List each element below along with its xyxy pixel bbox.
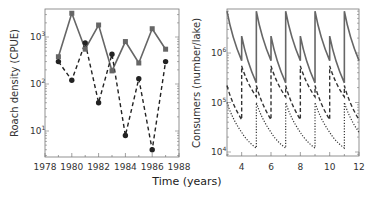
circle-marker (69, 78, 74, 83)
circle-marker (109, 52, 114, 57)
series-dashed-line (58, 43, 165, 150)
series-solid-sawtooth (227, 11, 359, 83)
left-ytick-1e1: 101 (30, 124, 45, 136)
square-marker (56, 54, 61, 59)
right-xtick-label: 8 (297, 162, 303, 172)
left-xtick-label: 1984 (114, 162, 137, 172)
left-plot-series (56, 11, 169, 153)
circle-marker (136, 76, 141, 81)
left-plot-frame (45, 9, 179, 157)
x-axis-label: Time (years) (151, 175, 221, 188)
right-xtick-label: 12 (353, 162, 364, 172)
right-x-tick-labels: 4681012 (239, 162, 365, 172)
circle-marker (150, 147, 155, 152)
left-xtick-label: 1982 (87, 162, 110, 172)
left-xtick-label: 1988 (168, 162, 191, 172)
square-marker (69, 11, 74, 16)
right-ytick-1e5: 105 (211, 96, 226, 108)
circle-marker (96, 100, 101, 105)
right-ytick-1e6: 106 (211, 46, 226, 58)
series-solid-line (58, 13, 165, 71)
left-ytick-1e2: 102 (30, 77, 45, 89)
left-y-axis-label: Roach density (CPUE) (9, 29, 20, 137)
right-xtick-label: 10 (324, 162, 336, 172)
right-plot-series (227, 11, 359, 148)
series-dotted-sawtooth (227, 103, 359, 149)
square-marker (83, 47, 88, 52)
circle-marker (56, 59, 61, 64)
right-xtick-label: 4 (239, 162, 245, 172)
left-xtick-label: 1980 (60, 162, 83, 172)
circle-marker (123, 133, 128, 138)
circle-marker (83, 40, 88, 45)
figure: 103 102 101 197819801982198419861988 Roa… (0, 0, 374, 197)
left-xtick-label: 1978 (34, 162, 57, 172)
square-marker (163, 47, 168, 52)
square-marker (136, 60, 141, 65)
right-xtick-label: 6 (268, 162, 274, 172)
left-ytick-1e3: 103 (30, 30, 45, 42)
series-dashed-sawtooth (227, 66, 359, 120)
right-y-axis-label: Consumers (number/lake) (191, 18, 202, 148)
square-marker (150, 26, 155, 31)
right-ytick-1e4: 104 (211, 145, 226, 157)
square-marker (96, 23, 101, 28)
square-marker (110, 68, 115, 73)
right-plot-frame (227, 9, 359, 156)
left-xtick-label: 1986 (141, 162, 164, 172)
circle-marker (163, 59, 168, 64)
right-axis-ticks (227, 11, 359, 156)
left-x-tick-labels: 197819801982198419861988 (34, 162, 191, 172)
square-marker (123, 39, 128, 44)
